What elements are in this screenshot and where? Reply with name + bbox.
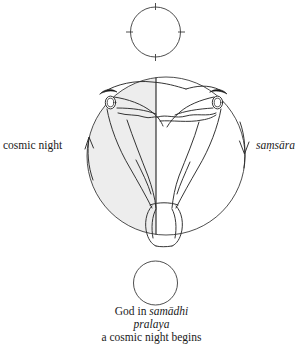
caption-line-1-italic: samādhi xyxy=(149,305,188,317)
label-cosmic-night: cosmic night xyxy=(3,139,62,152)
caption-block: God in samādhi pralaya a cosmic night be… xyxy=(0,305,303,344)
head-crown xyxy=(156,246,172,247)
cosmic-cycle-diagram xyxy=(0,0,303,344)
caption-line-1-prefix: God in xyxy=(115,305,150,317)
caption-line-1: God in samādhi xyxy=(0,305,303,318)
bottom-circle xyxy=(134,261,178,305)
caption-line-3: a cosmic night begins xyxy=(0,331,303,344)
left-foot-shade xyxy=(100,90,117,94)
top-circle xyxy=(131,7,181,57)
diagram-stage: cosmic night saṃsāra God in samādhi pral… xyxy=(0,0,303,344)
top-circle-group xyxy=(126,3,185,61)
label-samsara: saṃsāra xyxy=(256,139,295,152)
caption-line-2: pralaya xyxy=(0,318,303,331)
